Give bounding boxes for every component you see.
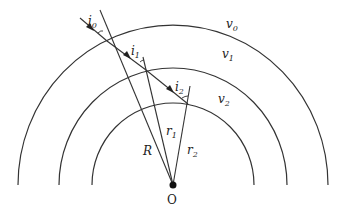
middle-arc [59, 68, 287, 185]
radius-label-r2: r2 [187, 143, 198, 159]
speed-label-v2: v2 [218, 92, 230, 108]
outer-arc [18, 25, 328, 185]
inner-arc [92, 103, 254, 185]
radius-label-r1: r1 [166, 124, 177, 140]
refraction-diagram: O v0 v1 v2 i0 i1 i2 R r1 r2 [0, 0, 343, 213]
arrow-icon [123, 51, 131, 59]
radius-label-R: R [142, 144, 152, 158]
radius-R [100, 10, 173, 185]
radius-r1 [143, 57, 173, 185]
angle-label-i1: i1 [131, 44, 140, 60]
speed-label-v0: v0 [226, 17, 238, 33]
center-label: O [167, 193, 177, 207]
speed-label-v1: v1 [222, 47, 234, 63]
arrow-icon [166, 85, 174, 93]
center-point [170, 182, 177, 189]
angle-arc-i0 [98, 31, 103, 33]
angle-arc-i2 [182, 96, 188, 98]
angle-label-i0: i0 [88, 14, 97, 30]
angle-label-i2: i2 [175, 80, 184, 96]
